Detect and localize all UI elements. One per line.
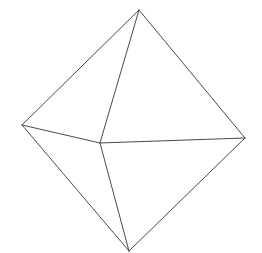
edge-top-front: [100, 10, 139, 143]
edge-right-bottom: [129, 138, 245, 251]
edge-front-right: [100, 138, 245, 143]
edge-top-left: [22, 10, 139, 125]
octahedron-diagram: [0, 0, 262, 253]
edge-front-bottom: [100, 143, 129, 251]
octahedron-edges: [22, 10, 245, 251]
edge-left-bottom: [22, 125, 129, 251]
edge-left-front: [22, 125, 100, 143]
edge-top-right: [139, 10, 245, 138]
